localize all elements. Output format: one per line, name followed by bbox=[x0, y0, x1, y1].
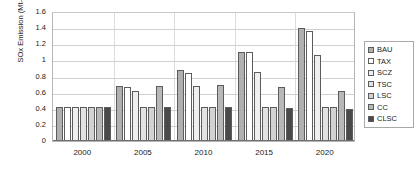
legend-swatch-icon-SCZ bbox=[368, 70, 374, 76]
bar-SCZ-2005[interactable] bbox=[132, 91, 139, 141]
bar-BAU-2015[interactable] bbox=[238, 52, 245, 141]
bar-LSC-2020[interactable] bbox=[330, 107, 337, 141]
bar-BAU-2020[interactable] bbox=[298, 28, 305, 141]
bar-CC-2010[interactable] bbox=[217, 85, 224, 141]
bar-SCZ-2010[interactable] bbox=[193, 86, 200, 141]
bar-SCZ-2015[interactable] bbox=[254, 72, 261, 141]
bar-CC-2000[interactable] bbox=[96, 107, 103, 141]
y-axis-tick-label: 0 bbox=[42, 137, 46, 145]
bar-TAX-2010[interactable] bbox=[185, 73, 192, 141]
legend-label: LSC bbox=[377, 92, 392, 100]
legend-label: CC bbox=[377, 104, 388, 112]
bar-CLSC-2010[interactable] bbox=[225, 107, 232, 141]
scan-artifact-strip bbox=[0, 0, 418, 5]
legend-label: CLSC bbox=[377, 115, 397, 123]
legend-item-CLSC[interactable]: CLSC bbox=[368, 113, 411, 125]
y-axis-tick-label: 1.2 bbox=[36, 41, 46, 49]
bar-CLSC-2000[interactable] bbox=[104, 107, 111, 141]
bar-TSC-2010[interactable] bbox=[201, 107, 208, 141]
bar-SCZ-2020[interactable] bbox=[314, 55, 321, 141]
y-axis-tick-labels: 00.20.40.60.811.21.41.6 bbox=[18, 12, 49, 142]
legend-item-SCZ[interactable]: SCZ bbox=[368, 67, 411, 79]
bar-CLSC-2020[interactable] bbox=[346, 109, 353, 141]
bar-group-2000 bbox=[53, 13, 114, 141]
bar-BAU-2010[interactable] bbox=[177, 70, 184, 141]
bar-TAX-2020[interactable] bbox=[306, 31, 313, 141]
bar-LSC-2015[interactable] bbox=[270, 107, 277, 141]
x-axis-baseline bbox=[53, 140, 354, 141]
chart-legend: BAUTAXSCZTSCLSCCCCLSC bbox=[364, 41, 414, 128]
bar-LSC-2005[interactable] bbox=[148, 107, 155, 141]
bar-LSC-2010[interactable] bbox=[209, 107, 216, 141]
bar-TAX-2005[interactable] bbox=[124, 87, 131, 141]
bar-CLSC-2005[interactable] bbox=[164, 107, 171, 141]
bar-TSC-2005[interactable] bbox=[140, 107, 147, 141]
bar-SCZ-2000[interactable] bbox=[72, 107, 79, 141]
y-axis-tick-label: 0.4 bbox=[36, 105, 46, 113]
plot-area bbox=[52, 12, 355, 142]
bar-TSC-2015[interactable] bbox=[262, 107, 269, 141]
legend-item-CC[interactable]: CC bbox=[368, 102, 411, 114]
legend-swatch-icon-TSC bbox=[368, 81, 374, 87]
y-axis-title-container: SOx Emission (Mt-S/yr.) bbox=[0, 0, 16, 150]
legend-item-BAU[interactable]: BAU bbox=[368, 44, 411, 56]
legend-item-TAX[interactable]: TAX bbox=[368, 56, 411, 68]
y-axis-tick-label: 0.6 bbox=[36, 89, 46, 97]
x-axis-tick-label: 2020 bbox=[316, 148, 334, 157]
bar-TAX-2015[interactable] bbox=[246, 52, 253, 141]
y-axis-tick-label: 1.6 bbox=[36, 8, 46, 16]
bar-TAX-2000[interactable] bbox=[64, 107, 71, 141]
x-axis-tick-label: 2000 bbox=[73, 148, 91, 157]
legend-item-TSC[interactable]: TSC bbox=[368, 79, 411, 91]
bar-group-2005 bbox=[114, 13, 175, 141]
legend-label: TAX bbox=[377, 58, 391, 66]
y-axis-tick-label: 0.8 bbox=[36, 73, 46, 81]
bars-layer bbox=[53, 13, 354, 141]
legend-swatch-icon-CLSC bbox=[368, 116, 374, 122]
x-axis-tick-label: 2010 bbox=[195, 148, 213, 157]
sox-emission-bar-chart: SOx Emission (Mt-S/yr.) 00.20.40.60.811.… bbox=[0, 0, 418, 177]
bar-group-2020 bbox=[295, 13, 355, 141]
y-axis-tick-label: 1.4 bbox=[36, 24, 46, 32]
y-axis-tick-label: 0.2 bbox=[36, 121, 46, 129]
bar-group-2010 bbox=[174, 13, 235, 141]
legend-label: TSC bbox=[377, 81, 392, 89]
x-axis-tick-label: 2005 bbox=[134, 148, 152, 157]
x-axis-tick-label: 2015 bbox=[255, 148, 273, 157]
y-axis-tick-label: 1 bbox=[42, 57, 46, 65]
bar-BAU-2000[interactable] bbox=[56, 107, 63, 141]
bar-TSC-2000[interactable] bbox=[80, 107, 87, 141]
bar-CC-2020[interactable] bbox=[338, 91, 345, 141]
bar-CLSC-2015[interactable] bbox=[286, 108, 293, 141]
bar-CC-2005[interactable] bbox=[156, 86, 163, 141]
x-axis-tick-labels: 20002005201020152020 bbox=[52, 148, 355, 164]
legend-swatch-icon-CC bbox=[368, 104, 374, 110]
legend-swatch-icon-TAX bbox=[368, 58, 374, 64]
legend-label: BAU bbox=[377, 46, 392, 54]
bar-group-2015 bbox=[235, 13, 296, 141]
bar-BAU-2005[interactable] bbox=[116, 86, 123, 141]
legend-swatch-icon-LSC bbox=[368, 93, 374, 99]
bar-TSC-2020[interactable] bbox=[322, 107, 329, 141]
legend-label: SCZ bbox=[377, 69, 392, 77]
bar-LSC-2000[interactable] bbox=[88, 107, 95, 141]
legend-item-LSC[interactable]: LSC bbox=[368, 90, 411, 102]
legend-swatch-icon-BAU bbox=[368, 47, 374, 53]
bar-CC-2015[interactable] bbox=[278, 87, 285, 141]
